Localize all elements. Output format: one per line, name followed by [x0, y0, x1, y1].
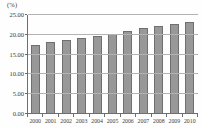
y-axis-unit-label: (%): [7, 1, 17, 9]
x-axis-tick-0: [27, 114, 28, 117]
x-axis-tick-5: [104, 114, 105, 117]
x-axis-tick-2: [58, 114, 59, 117]
x-axis-line: [27, 113, 198, 114]
x-tick-label-2003: 2003: [74, 118, 89, 125]
gridline-10: [28, 73, 198, 74]
gridline-20: [28, 34, 198, 35]
x-tick-label-2005: 2005: [105, 118, 120, 125]
bar-2008: [154, 26, 163, 114]
y-tick-label-5.00: 5.00: [0, 90, 24, 97]
x-tick-label-2000: 2000: [28, 118, 43, 125]
y-tick-label-20.00: 20.00: [0, 31, 24, 38]
x-axis-tick-1: [42, 114, 43, 117]
x-axis-tick-9: [166, 114, 167, 117]
bar-chart: (%) 25.0020.0015.0010.005.000.00 2000200…: [0, 0, 201, 129]
bar-2007: [139, 28, 148, 113]
x-tick-label-2004: 2004: [89, 118, 104, 125]
bar-2002: [62, 40, 71, 113]
bar-2003: [77, 38, 86, 113]
x-axis-tick-4: [89, 114, 90, 117]
x-axis-tick-3: [73, 114, 74, 117]
y-tick-label-15.00: 15.00: [0, 51, 24, 58]
x-tick-label-2010: 2010: [182, 118, 197, 125]
x-tick-label-2009: 2009: [167, 118, 182, 125]
y-tick-label-0.00: 0.00: [0, 110, 24, 117]
bar-2010: [185, 22, 194, 113]
bar-2000: [31, 45, 40, 114]
x-axis-tick-6: [120, 114, 121, 117]
gridline-5: [28, 93, 198, 94]
x-axis-tick-7: [135, 114, 136, 117]
gridline-15: [28, 54, 198, 55]
bar-2009: [170, 24, 179, 114]
y-tick-label-10.00: 10.00: [0, 70, 24, 77]
bar-2004: [93, 36, 102, 114]
bar-2006: [123, 31, 132, 113]
x-tick-label-2001: 2001: [43, 118, 58, 125]
y-axis-line: [27, 15, 28, 114]
gridline-25: [28, 14, 198, 15]
x-axis-tick-10: [182, 114, 183, 117]
x-axis-tick-11: [197, 114, 198, 117]
x-tick-label-2008: 2008: [151, 118, 166, 125]
x-tick-label-2002: 2002: [58, 118, 73, 125]
y-tick-label-25.00: 25.00: [0, 11, 24, 18]
x-tick-label-2006: 2006: [120, 118, 135, 125]
x-tick-label-2007: 2007: [136, 118, 151, 125]
x-axis-tick-8: [151, 114, 152, 117]
